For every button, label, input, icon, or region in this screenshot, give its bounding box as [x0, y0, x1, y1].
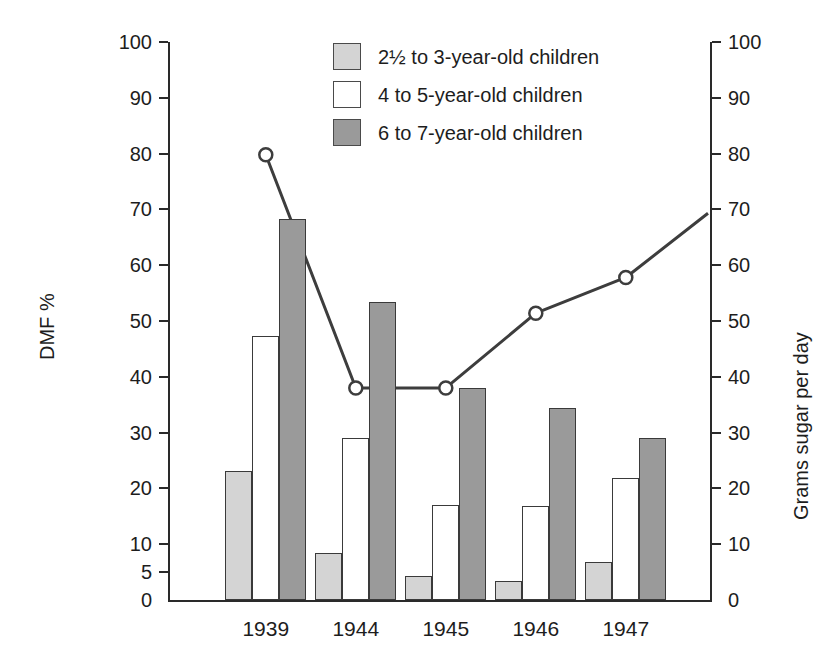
- bar-1944-series2: [369, 302, 396, 600]
- right-tick-label: 0: [728, 590, 739, 610]
- left-tick-label: 0: [90, 590, 152, 610]
- right-tick-mark: [712, 264, 721, 266]
- right-tick-label: 50: [728, 311, 750, 331]
- right-tick-label: 60: [728, 255, 750, 275]
- right-tick-label: 10: [728, 534, 750, 554]
- legend-item-2: 6 to 7-year-old children: [333, 116, 599, 149]
- right-tick-label: 70: [728, 199, 750, 219]
- right-tick-mark: [712, 376, 721, 378]
- right-tick-mark: [712, 153, 721, 155]
- left-tick-mark: [159, 320, 168, 322]
- right-tick-label: 20: [728, 478, 750, 498]
- bar-1947-series0: [585, 562, 612, 600]
- right-tick-mark: [712, 320, 721, 322]
- left-tick-label: 20: [90, 478, 152, 498]
- left-tick-mark: [159, 97, 168, 99]
- left-tick-label: 30: [90, 423, 152, 443]
- right-tick-mark: [712, 97, 721, 99]
- left-tick-label: 10: [90, 534, 152, 554]
- legend-swatch-1: [333, 81, 361, 108]
- right-axis-line: [710, 42, 712, 602]
- left-tick-mark: [159, 41, 168, 43]
- left-tick-label: 90: [90, 88, 152, 108]
- legend-label-0: 2½ to 3-year-old children: [378, 47, 599, 67]
- bar-1945-series1: [432, 505, 459, 600]
- left-tick-label: 40: [90, 367, 152, 387]
- left-tick-mark: [159, 153, 168, 155]
- left-tick-label: 5: [90, 562, 152, 582]
- right-tick-label: 100: [728, 32, 761, 52]
- right-tick-label: 40: [728, 367, 750, 387]
- bar-1946-series0: [495, 581, 522, 600]
- legend-item-1: 4 to 5-year-old children: [333, 78, 599, 111]
- legend-item-0: 2½ to 3-year-old children: [333, 40, 599, 73]
- bar-1946-series1: [522, 506, 549, 600]
- left-tick-mark: [159, 208, 168, 210]
- bar-1945-series2: [459, 388, 486, 600]
- bar-1945-series0: [405, 576, 432, 600]
- right-axis-title: Grams sugar per day: [790, 332, 813, 520]
- chart-container: DMF % Grams sugar per day 05102030405060…: [0, 0, 823, 648]
- bar-1947-series2: [639, 438, 666, 600]
- left-tick-label: 70: [90, 199, 152, 219]
- bar-1944-series1: [342, 438, 369, 600]
- bar-1946-series2: [549, 408, 576, 601]
- legend-swatch-2: [333, 119, 361, 146]
- x-axis-label-1947: 1947: [571, 618, 681, 639]
- right-tick-label: 30: [728, 423, 750, 443]
- bar-1944-series0: [315, 553, 342, 600]
- bottom-axis-line: [168, 600, 712, 602]
- left-tick-mark: [159, 432, 168, 434]
- bar-1947-series1: [612, 478, 639, 600]
- right-tick-label: 90: [728, 88, 750, 108]
- left-tick-mark: [159, 264, 168, 266]
- bar-1939-series0: [225, 471, 252, 600]
- left-tick-label: 60: [90, 255, 152, 275]
- legend-swatch-0: [333, 43, 361, 70]
- right-tick-mark: [712, 432, 721, 434]
- right-tick-mark: [712, 543, 721, 545]
- left-tick-label: 80: [90, 144, 152, 164]
- left-tick-mark: [159, 376, 168, 378]
- left-tick-mark: [159, 543, 168, 545]
- left-axis-title: DMF %: [36, 293, 59, 360]
- legend-label-1: 4 to 5-year-old children: [378, 85, 583, 105]
- right-tick-mark: [712, 208, 721, 210]
- left-tick-label: 50: [90, 311, 152, 331]
- bar-1939-series2: [279, 219, 306, 600]
- right-tick-label: 80: [728, 144, 750, 164]
- legend: 2½ to 3-year-old children4 to 5-year-old…: [333, 40, 599, 154]
- left-tick-label: 100: [90, 32, 152, 52]
- left-tick-mark: [159, 487, 168, 489]
- legend-label-2: 6 to 7-year-old children: [378, 123, 583, 143]
- bar-1939-series1: [252, 336, 279, 600]
- right-tick-mark: [712, 487, 721, 489]
- left-tick-mark: [159, 571, 168, 573]
- right-tick-mark: [712, 41, 721, 43]
